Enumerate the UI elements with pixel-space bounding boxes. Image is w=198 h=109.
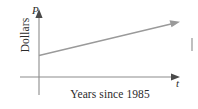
trend-line (39, 24, 171, 56)
x-axis-title: Years since 1985 (60, 88, 160, 100)
y-axis-variable-label: P (32, 5, 39, 16)
y-axis-title: Dollars (19, 7, 31, 63)
graph-figure: P t Dollars Years since 1985 (0, 0, 198, 109)
x-axis-variable-label: t (176, 78, 179, 89)
trend-line-arrowhead (170, 20, 181, 27)
